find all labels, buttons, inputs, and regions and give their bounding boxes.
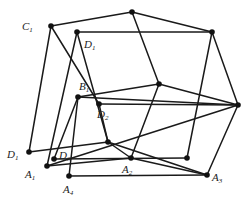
vertex-rt — [209, 29, 215, 35]
edge-m-a2 — [131, 84, 159, 158]
edge-a4-a3 — [69, 175, 207, 176]
label-d1-upper: D1 — [83, 38, 95, 52]
vertex-a2 — [128, 155, 134, 161]
vertex-ib — [184, 155, 190, 161]
label-a4: A4 — [62, 183, 74, 197]
label-a2: A2 — [121, 163, 133, 177]
vertex-x — [105, 139, 111, 145]
edge-t-rt — [132, 12, 212, 32]
label-d3: D3 — [58, 149, 71, 163]
vertex-a3 — [204, 172, 210, 178]
vertex-labels: C1 D1 B1 D2 D1 D3 A1 A2 A3 A4 — [6, 20, 223, 197]
vertex-a1 — [44, 163, 50, 169]
edge-c1-t — [51, 12, 132, 26]
vertex-t — [129, 9, 135, 15]
vertex-d2 — [96, 101, 102, 107]
label-d2: D2 — [96, 108, 109, 122]
vertex-d3 — [51, 156, 57, 162]
edge-x-a2 — [108, 142, 131, 158]
vertex-b1 — [75, 94, 81, 100]
vertex-d1b — [26, 149, 32, 155]
edge-a2-a3 — [131, 158, 207, 175]
edge-t-m — [132, 12, 159, 84]
vertex-r — [235, 102, 241, 108]
vertex-d1a — [74, 29, 80, 35]
edge-d2-r — [99, 104, 238, 105]
edge-c1-d1b — [29, 26, 51, 152]
label-c1: C1 — [22, 20, 33, 34]
vertex-m — [156, 81, 162, 87]
label-d1-lower: D1 — [6, 148, 18, 162]
vertex-c1 — [48, 23, 54, 29]
wireframe-diagram: C1 D1 B1 D2 D1 D3 A1 A2 A3 A4 — [0, 0, 250, 200]
edge-r-a3 — [207, 105, 238, 175]
label-b1: B1 — [79, 80, 89, 94]
edge-rt-r — [212, 32, 238, 105]
vertex-a4 — [66, 173, 72, 179]
label-a3: A3 — [211, 171, 223, 185]
label-a1: A1 — [24, 168, 35, 182]
